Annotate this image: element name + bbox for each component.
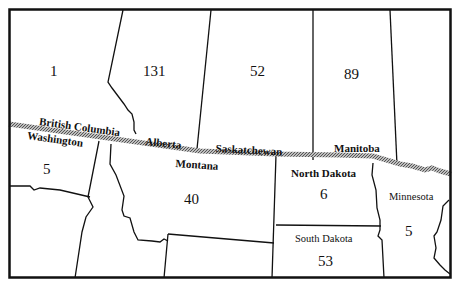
region-value-minnesota: 5 [405, 224, 413, 239]
region-value-south-dakota: 53 [318, 254, 333, 269]
region-value-saskatchewan: 52 [250, 64, 265, 79]
region-name-manitoba: Manitoba [334, 143, 380, 154]
region-value-montana: 40 [184, 192, 199, 207]
region-value-north-dakota: 6 [320, 187, 328, 202]
region-name-north-dakota: North Dakota [291, 168, 356, 179]
region-name-south-dakota: South Dakota [295, 234, 352, 245]
region-value-washington: 5 [43, 162, 51, 177]
region-value-british-columbia: 1 [50, 64, 58, 79]
region-value-manitoba: 89 [344, 67, 359, 82]
region-name-minnesota: Minnesota [389, 192, 433, 203]
region-value-alberta: 131 [143, 64, 166, 79]
